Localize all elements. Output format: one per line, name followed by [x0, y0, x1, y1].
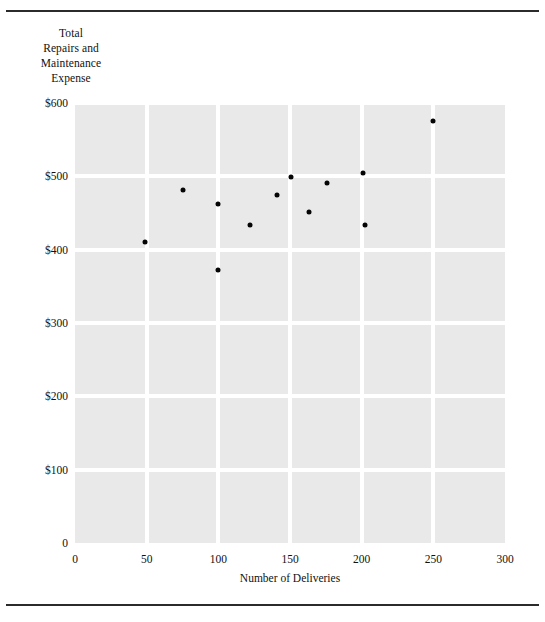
data-point: [247, 223, 252, 228]
x-tick-label: 150: [270, 553, 310, 565]
scatter-plot-area: [75, 103, 505, 543]
data-point: [431, 118, 436, 123]
x-tick-label: 0: [55, 553, 95, 565]
x-tick-label: 200: [342, 553, 382, 565]
y-tick-label: $300: [6, 317, 68, 329]
y-axis-title-line-1: Total: [6, 26, 136, 41]
x-tick-label: 100: [198, 553, 238, 565]
y-tick-label: $200: [6, 390, 68, 402]
data-point: [216, 268, 221, 273]
y-tick-label: $600: [6, 97, 68, 109]
bottom-horizontal-rule: [6, 604, 539, 606]
y-axis-title-line-3: Maintenance: [6, 56, 136, 71]
data-point: [275, 192, 280, 197]
y-axis-title-line-2: Repairs and: [6, 41, 136, 56]
y-axis-title-line-4: Expense: [6, 71, 136, 86]
y-tick-label: $400: [6, 244, 68, 256]
data-point: [216, 202, 221, 207]
data-point: [361, 171, 366, 176]
data-point: [180, 188, 185, 193]
data-point: [306, 209, 311, 214]
x-axis-title: Number of Deliveries: [75, 572, 505, 584]
x-tick-label: 300: [485, 553, 525, 565]
y-tick-label: 0: [6, 537, 68, 549]
top-horizontal-rule: [6, 10, 539, 12]
figure-page: Total Repairs and Maintenance Expense 0$…: [0, 0, 545, 622]
data-point: [362, 223, 367, 228]
gridline-vertical: [360, 103, 364, 543]
x-tick-label: 250: [413, 553, 453, 565]
data-point: [289, 175, 294, 180]
gridline-vertical: [431, 103, 435, 543]
gridline-vertical: [145, 103, 149, 543]
gridline-vertical: [216, 103, 220, 543]
x-tick-label: 50: [127, 553, 167, 565]
y-tick-label: $100: [6, 464, 68, 476]
gridline-vertical: [288, 103, 292, 543]
data-point: [143, 240, 148, 245]
y-tick-label: $500: [6, 170, 68, 182]
data-point: [325, 180, 330, 185]
y-axis-title: Total Repairs and Maintenance Expense: [6, 26, 136, 86]
